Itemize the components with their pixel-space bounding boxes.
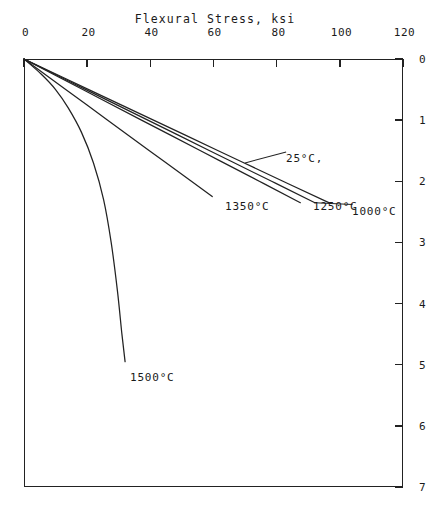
x-tick-label-1: 1 bbox=[409, 114, 437, 127]
curve-25C bbox=[24, 59, 329, 203]
y-axis-title: Flexural Stress, ksi bbox=[126, 12, 306, 26]
y-tick-label-100: 100 bbox=[324, 26, 358, 39]
x-tick-label-5: 5 bbox=[409, 358, 437, 371]
x-tick-label-3: 3 bbox=[409, 236, 437, 249]
curve-1350C bbox=[24, 59, 212, 197]
curve-label-1000C: 1000°C bbox=[352, 205, 397, 218]
y-tick-label-0: 0 bbox=[9, 26, 43, 39]
leader-line-25C bbox=[245, 152, 286, 163]
chart-stage: 01234567 020406080100120 Strain, in/in x… bbox=[0, 0, 444, 524]
curve-layer bbox=[24, 59, 403, 487]
figure-canvas: 01234567 020406080100120 Strain, in/in x… bbox=[0, 0, 444, 524]
curve-label-1350C: 1350°C bbox=[225, 200, 270, 213]
y-tick-label-60: 60 bbox=[198, 26, 232, 39]
y-tick-label-80: 80 bbox=[261, 26, 295, 39]
curve-1250C bbox=[24, 59, 300, 203]
x-tick-label-4: 4 bbox=[409, 297, 437, 310]
x-tick-label-7: 7 bbox=[409, 481, 437, 494]
curve-label-1500C: 1500°C bbox=[130, 371, 175, 384]
y-tick-label-40: 40 bbox=[135, 26, 169, 39]
y-tick-label-120: 120 bbox=[388, 26, 422, 39]
x-tick-label-0: 0 bbox=[409, 53, 437, 66]
x-tick-label-2: 2 bbox=[409, 175, 437, 188]
curve-label-1250C: 1250°C bbox=[313, 200, 358, 213]
x-tick-label-6: 6 bbox=[409, 419, 437, 432]
curve-label-25C: 25°C, bbox=[286, 152, 323, 165]
y-tick-label-20: 20 bbox=[72, 26, 106, 39]
curve-1000C bbox=[24, 59, 315, 203]
